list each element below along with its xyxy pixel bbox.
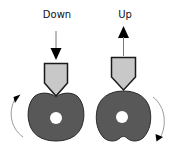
cam-follower-diagram: Down Up — [0, 0, 176, 154]
diagram-graphics — [0, 0, 176, 154]
left-cam-hole — [50, 112, 62, 124]
up-arrow-icon — [118, 26, 129, 56]
right-follower — [112, 58, 136, 91]
down-arrow-icon — [51, 31, 62, 60]
counterclockwise-rotation-icon — [11, 96, 23, 137]
right-cam-hole — [116, 111, 128, 123]
right-panel — [96, 26, 164, 142]
left-panel — [11, 31, 84, 141]
left-follower — [45, 64, 68, 97]
clockwise-rotation-icon — [153, 97, 164, 138]
